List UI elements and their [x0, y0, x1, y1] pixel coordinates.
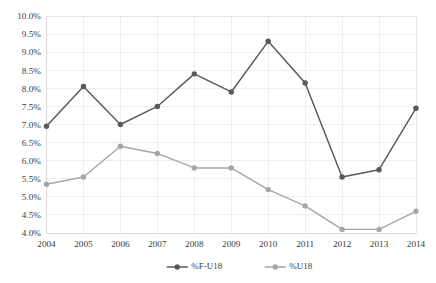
x-axis-tick-label: 2010	[259, 239, 278, 249]
data-point-marker[interactable]	[155, 104, 160, 109]
data-point-marker[interactable]	[44, 181, 49, 186]
y-axis-tick-label: 6.0%	[22, 156, 41, 166]
y-axis-tick-label: 7.0%	[22, 120, 41, 130]
data-point-marker[interactable]	[192, 71, 197, 76]
data-point-marker[interactable]	[44, 124, 49, 129]
x-axis-tick-label: 2012	[333, 239, 352, 249]
x-axis-tick-label: 2008	[185, 239, 204, 249]
data-point-marker[interactable]	[81, 84, 86, 89]
data-point-marker[interactable]	[229, 165, 234, 170]
x-axis-tick-label: 2004	[37, 239, 56, 249]
legend-label: %F-U18	[191, 261, 222, 271]
y-axis-tick-label: 10.0%	[17, 11, 41, 21]
data-point-marker[interactable]	[339, 174, 344, 179]
y-axis-tick-label: 7.5%	[22, 102, 41, 112]
data-point-marker[interactable]	[413, 209, 418, 214]
legend-marker-icon	[273, 264, 278, 269]
x-axis-tick-label: 2009	[222, 239, 241, 249]
data-point-marker[interactable]	[229, 89, 234, 94]
line-chart: 10.0%9.5%9.0%8.5%8.0%7.5%7.0%6.5%6.0%5.5…	[0, 0, 436, 283]
x-axis-tick-label: 2011	[296, 239, 314, 249]
y-axis-tick-label: 8.0%	[22, 84, 41, 94]
data-point-marker[interactable]	[376, 167, 381, 172]
y-axis-tick-label: 6.5%	[22, 138, 41, 148]
data-point-marker[interactable]	[118, 144, 123, 149]
data-point-marker[interactable]	[266, 187, 271, 192]
x-axis-tick-label: 2005	[74, 239, 93, 249]
data-point-marker[interactable]	[155, 151, 160, 156]
legend-marker-icon	[175, 264, 180, 269]
x-axis-tick-label: 2014	[407, 239, 426, 249]
x-axis-tick-label: 2013	[370, 239, 389, 249]
data-point-marker[interactable]	[413, 106, 418, 111]
y-axis-tick-label: 9.5%	[22, 29, 41, 39]
chart-canvas: 10.0%9.5%9.0%8.5%8.0%7.5%7.0%6.5%6.0%5.5…	[0, 0, 436, 283]
data-point-marker[interactable]	[302, 80, 307, 85]
y-axis-tick-label: 4.5%	[22, 210, 41, 220]
data-point-marker[interactable]	[266, 39, 271, 44]
data-point-marker[interactable]	[118, 122, 123, 127]
data-point-marker[interactable]	[339, 227, 344, 232]
y-axis-tick-label: 4.0%	[22, 228, 41, 238]
data-point-marker[interactable]	[192, 165, 197, 170]
y-axis-tick-label: 8.5%	[22, 66, 41, 76]
data-point-marker[interactable]	[81, 174, 86, 179]
x-axis-tick-label: 2007	[148, 239, 167, 249]
data-point-marker[interactable]	[376, 227, 381, 232]
y-axis-tick-label: 9.0%	[22, 47, 41, 57]
x-axis-tick-label: 2006	[111, 239, 130, 249]
legend-label: %U18	[289, 261, 312, 271]
data-point-marker[interactable]	[302, 203, 307, 208]
y-axis-tick-label: 5.5%	[22, 174, 41, 184]
y-axis-tick-label: 5.0%	[22, 192, 41, 202]
